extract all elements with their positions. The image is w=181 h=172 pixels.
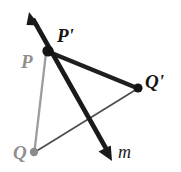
point-label-Q-prime: Q' — [145, 72, 164, 91]
line-label-m: m — [118, 143, 131, 161]
point-dot-Qprime — [133, 83, 142, 92]
geometry-figure: P P' Q' Q m — [0, 0, 181, 172]
point-label-P-prime: P' — [57, 26, 74, 45]
point-label-Q: Q — [13, 143, 27, 162]
segment-P-Q — [35, 53, 47, 151]
point-dot-Pprime — [42, 45, 53, 56]
point-dot-Q — [30, 148, 38, 156]
point-label-P: P — [21, 52, 33, 71]
line-m-arrowhead-start — [27, 12, 40, 26]
